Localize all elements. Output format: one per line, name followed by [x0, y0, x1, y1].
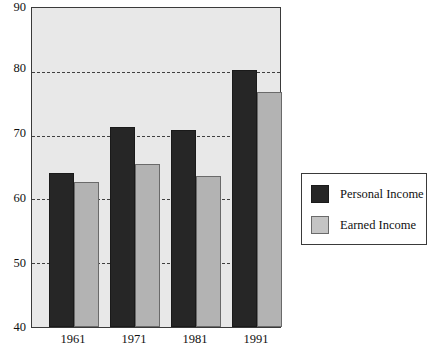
legend-label-earned-income: Earned Income [340, 219, 416, 232]
y-axis-tick-80: 80 [0, 62, 26, 75]
legend-label-personal-income: Personal Income [340, 188, 424, 201]
x-axis-tick-labels: 1961 1971 1981 1991 [31, 333, 281, 353]
bar-earned-income-1971 [135, 164, 160, 327]
bar-personal-income-1971 [110, 127, 135, 327]
y-axis-tick-70: 70 [0, 127, 26, 140]
bars-layer [32, 8, 280, 327]
y-axis-tick-60: 60 [0, 192, 26, 205]
light-square-swatch-icon [311, 216, 329, 234]
chart-legend: Personal Income Earned Income [301, 173, 427, 245]
bar-chart-figure: 90 80 70 60 50 40 1961 19 [0, 0, 434, 359]
bar-personal-income-1991 [232, 70, 257, 327]
bar-earned-income-1991 [257, 92, 282, 327]
plot-area [31, 7, 281, 328]
bar-personal-income-1981 [171, 130, 196, 327]
bar-earned-income-1981 [196, 176, 221, 327]
y-axis-tick-50: 50 [0, 257, 26, 270]
legend-entry-personal-income: Personal Income [311, 183, 424, 205]
x-axis-tick-1991: 1991 [218, 333, 294, 346]
bar-earned-income-1961 [74, 182, 99, 327]
dark-square-swatch-icon [311, 185, 329, 203]
legend-entry-earned-income: Earned Income [311, 214, 416, 236]
bar-personal-income-1961 [49, 173, 74, 327]
y-axis-tick-90: 90 [0, 1, 26, 14]
y-axis-tick-40: 40 [0, 321, 26, 334]
y-axis-tick-labels: 90 80 70 60 50 40 [0, 0, 28, 359]
